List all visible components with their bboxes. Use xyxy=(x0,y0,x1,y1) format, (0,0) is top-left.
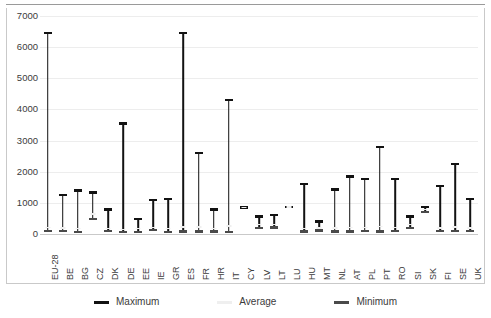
range-bar xyxy=(379,147,381,232)
average-marker xyxy=(392,227,397,229)
chart-category-group xyxy=(146,16,161,234)
minimum-marker xyxy=(300,230,308,232)
chart-category-group xyxy=(342,16,357,234)
average-marker xyxy=(45,227,50,229)
chart-category-group xyxy=(116,16,131,234)
chart-category-group xyxy=(448,16,463,234)
maximum-marker xyxy=(270,214,278,216)
gridline xyxy=(40,234,478,235)
maximum-marker xyxy=(119,122,127,124)
figure-top-rule xyxy=(6,4,485,5)
range-bar xyxy=(349,176,351,231)
chart-category-group xyxy=(418,16,433,234)
maximum-marker xyxy=(376,146,384,148)
x-axis-tick-label: SI xyxy=(414,271,423,280)
minimum-marker xyxy=(119,231,127,233)
average-marker xyxy=(302,228,307,230)
chart-category-group xyxy=(55,16,70,234)
x-axis-tick-label: EE xyxy=(142,268,151,280)
legend-item[interactable]: Minimum xyxy=(334,297,397,307)
average-marker xyxy=(317,227,322,229)
x-axis-tick-label: RO xyxy=(398,267,407,281)
y-axis-tick-label: 6000 xyxy=(0,42,38,52)
chart-figure: 01000200030004000500060007000 EU-28BEBGC… xyxy=(0,0,491,318)
average-marker xyxy=(181,226,186,228)
range-bar xyxy=(455,164,457,231)
x-axis-tick-label: DK xyxy=(111,267,120,280)
x-axis-tick-label: IT xyxy=(232,272,241,280)
chart-category-group xyxy=(191,16,206,234)
x-axis-tick-label: CY xyxy=(247,267,256,280)
chart-category-group xyxy=(463,16,478,234)
chart-category-group xyxy=(131,16,146,234)
y-axis-tick-label: 3000 xyxy=(0,136,38,146)
maximum-marker xyxy=(179,32,187,34)
maximum-marker xyxy=(406,215,414,217)
y-axis: 01000200030004000500060007000 xyxy=(0,16,38,234)
chart-category-group xyxy=(70,16,85,234)
average-marker xyxy=(256,224,261,226)
minimum-marker xyxy=(315,229,323,231)
average-marker xyxy=(377,226,382,228)
x-axis-tick-label: IE xyxy=(157,271,166,280)
range-bar xyxy=(47,33,49,231)
plot-area xyxy=(40,16,478,234)
average-marker xyxy=(272,224,277,226)
minimum-marker xyxy=(195,230,203,232)
minimum-marker xyxy=(89,218,97,220)
x-axis-tick-label: HU xyxy=(308,267,317,280)
chart-category-group xyxy=(357,16,372,234)
maximum-marker xyxy=(74,189,82,191)
x-axis-tick-label: LT xyxy=(278,270,287,280)
x-axis-tick-label: PL xyxy=(368,269,377,280)
average-marker xyxy=(151,227,156,229)
legend-item[interactable]: Maximum xyxy=(94,297,159,307)
average-marker xyxy=(241,207,246,209)
minimum-marker xyxy=(104,230,112,232)
chart-category-group xyxy=(372,16,387,234)
maximum-marker xyxy=(210,208,218,210)
minimum-marker xyxy=(421,211,429,213)
x-axis-tick-label: SK xyxy=(429,268,438,280)
minimum-marker xyxy=(134,231,142,233)
minimum-marker xyxy=(44,230,52,232)
range-bar xyxy=(228,100,230,232)
y-axis-tick-label: 4000 xyxy=(0,105,38,115)
average-marker xyxy=(332,227,337,229)
chart-category-group xyxy=(221,16,236,234)
legend-item[interactable]: Average xyxy=(217,297,276,307)
legend-item-label: Average xyxy=(239,297,276,307)
minimum-marker xyxy=(255,227,263,229)
average-marker xyxy=(408,224,413,226)
maximum-marker xyxy=(346,175,354,177)
chart-category-group xyxy=(251,16,266,234)
average-marker xyxy=(166,228,171,230)
legend-item-label: Maximum xyxy=(116,297,159,307)
maximum-marker xyxy=(134,218,142,220)
chart-category-group xyxy=(327,16,342,234)
range-bar xyxy=(62,195,64,231)
minimum-marker xyxy=(466,230,474,232)
legend-swatch-icon xyxy=(94,301,109,304)
chart-category-group xyxy=(402,16,417,234)
average-marker xyxy=(423,209,428,211)
maximum-marker xyxy=(436,185,444,187)
minimum-marker xyxy=(210,230,218,232)
maximum-marker xyxy=(225,99,233,101)
maximum-marker xyxy=(104,208,112,210)
average-marker xyxy=(362,227,367,229)
chart-category-group xyxy=(206,16,221,234)
chart-category-group xyxy=(85,16,100,234)
range-bar xyxy=(183,33,185,231)
x-axis-tick-label: LV xyxy=(263,270,272,280)
average-marker xyxy=(438,227,443,229)
average-marker xyxy=(347,227,352,229)
x-axis-tick-label: LU xyxy=(293,268,302,280)
chart-category-group xyxy=(236,16,251,234)
range-bar xyxy=(77,190,79,231)
maximum-marker xyxy=(164,198,172,200)
average-marker xyxy=(468,227,473,229)
x-axis-tick-label: CZ xyxy=(96,268,105,280)
legend-item-label: Minimum xyxy=(356,297,397,307)
minimum-marker xyxy=(179,230,187,232)
